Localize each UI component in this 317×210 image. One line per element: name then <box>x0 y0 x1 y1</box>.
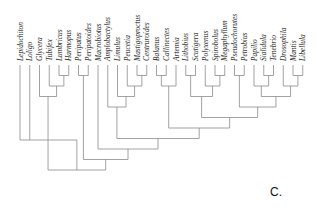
taxon-label: Centruroides <box>142 22 151 61</box>
taxon-label: Libellula <box>298 34 307 62</box>
taxon-label: Glycera <box>35 37 44 61</box>
taxon-label: Macrobiotus <box>94 23 103 62</box>
taxon-label: Lumbricus <box>55 29 64 62</box>
taxon-label: Megaphyllum <box>220 20 229 62</box>
taxon-label: Loligo <box>25 41 34 62</box>
taxon-label: Scutigera <box>191 32 200 61</box>
taxon-label: Callinectes <box>162 28 171 61</box>
taxon-label: Lithobius <box>181 33 190 62</box>
taxon-label: Mastigoproctus <box>133 15 142 62</box>
taxon-label: Peucetia <box>123 35 132 62</box>
taxon-label: Lepidochiton <box>16 22 25 62</box>
taxon-label: Mantis <box>289 40 298 62</box>
taxon-label: Pseudochorutes <box>230 14 239 62</box>
taxon-label: Tenebrio <box>269 35 278 61</box>
tree-branches <box>20 65 303 170</box>
taxon-label: Sialidula <box>259 34 268 61</box>
taxon-label: Papilio <box>250 39 259 62</box>
panel-label: C. <box>270 185 282 199</box>
taxon-label: Tubifex <box>45 39 54 61</box>
taxon-label: Polyxenus <box>201 31 210 62</box>
phylogenetic-tree: LepidochitonLoligoGlyceraTubifexLumbricu… <box>0 0 317 210</box>
taxon-label: Peripatus <box>74 32 83 62</box>
taxon-labels: LepidochitonLoligoGlyceraTubifexLumbricu… <box>16 14 308 62</box>
taxon-label: Balanus <box>152 37 161 61</box>
taxon-label: Drosophila <box>279 27 288 62</box>
taxon-label: Harmopus <box>64 30 73 62</box>
taxon-label: Amplobactylus <box>103 17 112 62</box>
taxon-label: Limulus <box>113 37 122 62</box>
taxon-label: Artemia <box>172 37 181 62</box>
taxon-label: Spirobolus <box>211 29 220 61</box>
taxon-label: Petrobius <box>240 32 249 62</box>
taxon-label: Peripatoides <box>84 23 93 62</box>
